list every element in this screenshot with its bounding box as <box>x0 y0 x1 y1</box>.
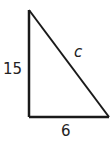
vertical-leg-label: 15 <box>3 62 22 77</box>
hypotenuse-label: c <box>74 45 82 60</box>
hypotenuse <box>29 10 109 117</box>
horizontal-leg-label: 6 <box>61 124 71 139</box>
